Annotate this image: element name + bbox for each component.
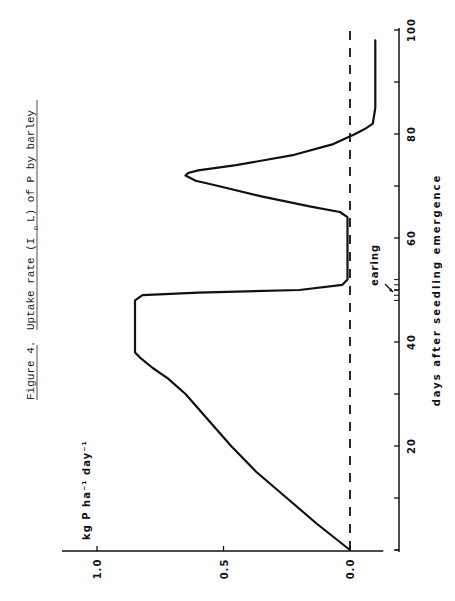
title-text-before: Uptake rate (I (25, 238, 37, 330)
x-tick-label: 80 (406, 126, 417, 142)
axes (62, 28, 399, 552)
x-tick-label: 20 (406, 438, 417, 454)
x-tick-label: 100 (406, 18, 417, 42)
y-axis-label: kg P ha⁻¹ day⁻¹ (81, 440, 92, 540)
chart: Figure 4. Uptake rate (I n L) of P by ba… (0, 0, 455, 601)
series-layer (135, 40, 375, 550)
x-tick-label: 60 (406, 230, 417, 246)
chart-title: Figure 4. Uptake rate (I n L) of P by ba… (25, 100, 40, 400)
x-axis-label: days after seedling emergence (431, 174, 442, 407)
y-tick-label: 1.0 (92, 559, 103, 580)
y-tick-label: 0.5 (219, 559, 230, 580)
title-text-after: L) of P by barley (25, 109, 37, 222)
earing-annotation: earing (369, 244, 380, 286)
x-tick-label: 40 (406, 334, 417, 350)
y-tick-label: 0.0 (345, 559, 356, 580)
labels-layer: 204060801000.00.51.0days after seedling … (81, 18, 442, 579)
figure-label: Figure 4. (25, 341, 37, 400)
uptake-rate-curve (135, 40, 375, 550)
title-subscript: n (32, 226, 40, 230)
